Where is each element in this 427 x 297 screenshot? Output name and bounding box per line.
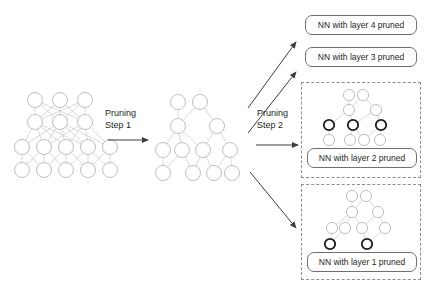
- result-box-layer-1-label: NN with layer 1 pruned: [319, 257, 405, 267]
- original-network: [15, 93, 118, 178]
- pruning-step-2-label-line1: Pruning: [257, 108, 288, 120]
- pruning-step-1-label: Pruning Step 1: [105, 108, 136, 131]
- pruning-step-2-label-line2: Step 2: [257, 120, 288, 132]
- arrows-pruning-step-2: [248, 42, 298, 228]
- diagram-canvas: Pruning Step 1 Pruning Step 2 NN with la…: [0, 0, 427, 297]
- result-box-layer-2[interactable]: NN with layer 2 pruned: [307, 148, 417, 168]
- network-after-step-1-nodes: [156, 95, 240, 181]
- result-box-layer-3[interactable]: NN with layer 3 pruned: [305, 47, 417, 67]
- result-box-layer-4-label: NN with layer 4 pruned: [318, 20, 404, 30]
- result-box-layer-4[interactable]: NN with layer 4 pruned: [305, 15, 417, 35]
- result-box-layer-3-label: NN with layer 3 pruned: [318, 52, 404, 62]
- network-after-step-1-edges: [163, 102, 232, 173]
- original-network-edges: [22, 100, 110, 170]
- pruning-step-1-label-line1: Pruning: [105, 108, 136, 120]
- result-box-layer-2-label: NN with layer 2 pruned: [319, 153, 405, 163]
- arrow-to-layer4-box: [248, 42, 296, 108]
- pruning-step-2-label: Pruning Step 2: [257, 108, 288, 131]
- arrow-to-layer1-box: [250, 172, 296, 228]
- network-after-step-1: [156, 95, 240, 181]
- pruning-step-1-label-line2: Step 1: [105, 120, 136, 132]
- result-box-layer-1[interactable]: NN with layer 1 pruned: [307, 252, 417, 272]
